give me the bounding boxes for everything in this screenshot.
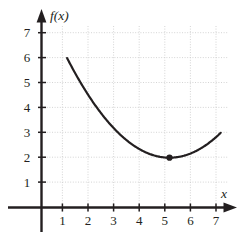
tick-marks xyxy=(38,33,216,212)
axes xyxy=(8,9,237,232)
y-tick-label-4: 4 xyxy=(20,101,34,114)
y-axis-label: f(x) xyxy=(50,9,69,23)
y-tick-label-6: 6 xyxy=(20,51,34,64)
y-tick-label-7: 7 xyxy=(20,26,34,39)
x-axis-label: x xyxy=(221,187,227,201)
y-axis-arrow xyxy=(37,9,47,23)
y-tick-label-1: 1 xyxy=(20,176,34,189)
x-tick-label-7: 7 xyxy=(209,214,223,227)
x-tick-label-5: 5 xyxy=(158,214,172,227)
x-tick-label-3: 3 xyxy=(107,214,121,227)
function-curve xyxy=(67,58,221,158)
y-tick-label-2: 2 xyxy=(20,151,34,164)
vertex-point-marker xyxy=(166,155,172,161)
graph-figure: 7 6 5 4 3 2 1 1 2 3 4 5 6 7 f(x) x xyxy=(0,0,243,252)
y-tick-label-5: 5 xyxy=(20,76,34,89)
x-tick-label-6: 6 xyxy=(183,214,197,227)
x-axis-arrow xyxy=(224,203,238,213)
x-tick-label-4: 4 xyxy=(132,214,146,227)
x-tick-label-1: 1 xyxy=(55,214,69,227)
x-tick-label-2: 2 xyxy=(81,214,95,227)
plot-area xyxy=(0,0,243,252)
y-tick-label-3: 3 xyxy=(20,126,34,139)
grid-lines xyxy=(39,26,228,213)
